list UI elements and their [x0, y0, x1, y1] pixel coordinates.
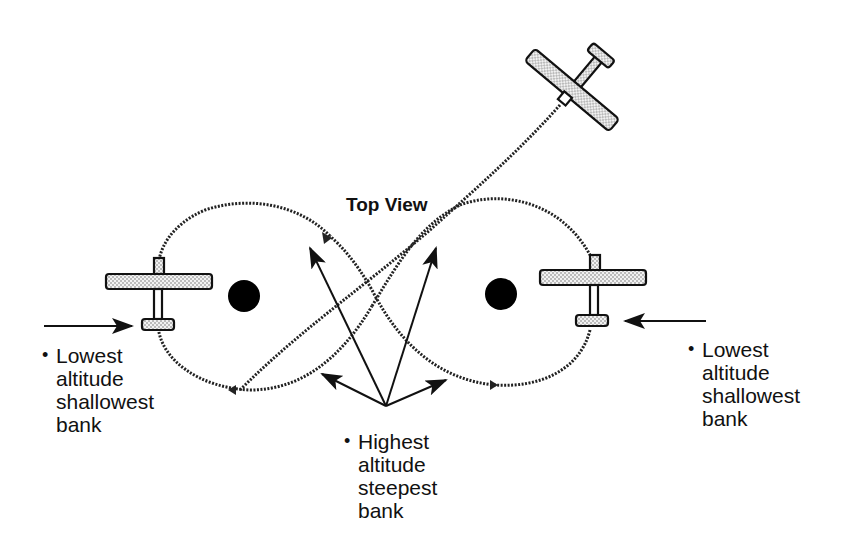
label-line: bank: [56, 413, 154, 436]
arrow-icon: [386, 380, 446, 406]
bullet-icon: •: [42, 344, 48, 367]
label-line: altitude: [56, 367, 154, 390]
label-line: Lowest: [56, 344, 154, 367]
airplane-icon: [106, 258, 212, 330]
airplane-icon: [540, 255, 646, 326]
pylon-marker-icon: [485, 278, 517, 310]
label-line: shallowest: [702, 384, 800, 407]
highest-point-arrows: [310, 248, 446, 406]
bullet-icon: •: [344, 430, 350, 453]
label-left: • Lowest altitude shallowest bank: [56, 344, 154, 436]
direction-marks: [228, 232, 498, 395]
flight-path: [158, 105, 590, 390]
airplane-icon: [520, 16, 647, 137]
label-line: shallowest: [56, 390, 154, 413]
label-line: altitude: [702, 361, 800, 384]
label-center: • Highest altitude steepest bank: [358, 430, 437, 522]
pylon-marker-icon: [228, 280, 260, 312]
diagram-title: Top View: [346, 194, 428, 216]
label-line: steepest: [358, 476, 437, 499]
label-right: • Lowest altitude shallowest bank: [702, 338, 800, 430]
label-line: Highest: [358, 430, 437, 453]
label-line: bank: [358, 499, 437, 522]
label-line: Lowest: [702, 338, 800, 361]
arrow-icon: [310, 248, 386, 406]
bullet-icon: •: [688, 338, 694, 361]
label-line: altitude: [358, 453, 437, 476]
arrow-icon: [322, 374, 386, 406]
label-line: bank: [702, 407, 800, 430]
